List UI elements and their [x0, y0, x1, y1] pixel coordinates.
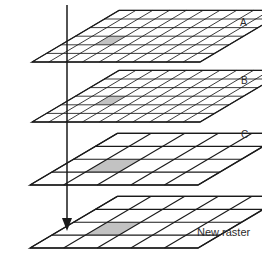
- diagram-canvas: A B C New raster: [0, 0, 262, 256]
- layer-label-c: C: [241, 129, 248, 140]
- layer-label-a: A: [240, 17, 247, 28]
- layer-label-new-raster: New raster: [197, 226, 251, 238]
- layer-c-highlighted-cell: [85, 159, 140, 172]
- layer-c: [30, 133, 262, 185]
- layer-label-b: B: [241, 75, 248, 86]
- layer-new-raster-highlighted-cell: [85, 222, 140, 235]
- layer-b-highlighted-cell: [95, 96, 126, 105]
- layer-a-highlighted-cell: [95, 36, 126, 45]
- raster-layers-group: [30, 10, 262, 248]
